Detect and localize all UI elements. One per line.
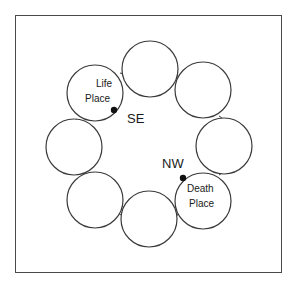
circle-bottom bbox=[121, 191, 177, 247]
direction-label-se: SE bbox=[127, 112, 144, 125]
circle-top bbox=[122, 41, 178, 97]
direction-label-nw: NW bbox=[162, 157, 184, 170]
death-place-marker-dot bbox=[180, 175, 186, 181]
diagram-canvas: Life Place Death Place SE NW bbox=[0, 0, 297, 289]
circle-ring bbox=[0, 0, 297, 289]
circle-right bbox=[196, 118, 252, 174]
circle-lower-left bbox=[67, 172, 123, 228]
life-place-label-line1: Life bbox=[96, 79, 112, 89]
circle-upper-right bbox=[175, 62, 231, 118]
death-place-label-line1: Death bbox=[187, 184, 214, 194]
death-place-label-line2: Place bbox=[189, 199, 214, 209]
circle-left bbox=[46, 119, 102, 175]
life-place-marker-dot bbox=[111, 107, 117, 113]
life-place-label-line2: Place bbox=[85, 94, 110, 104]
